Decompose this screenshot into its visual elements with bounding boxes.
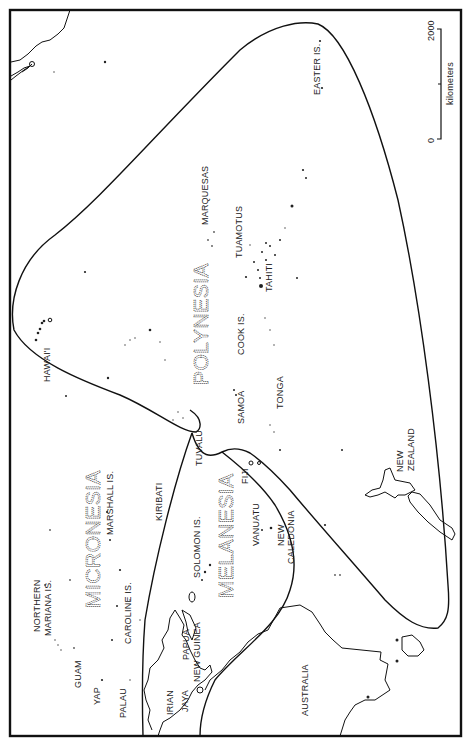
label-new-zealand-1: NEW (395, 450, 405, 472)
label-tuamotus: TUAMOTUS (234, 206, 244, 258)
label-tonga: TONGA (275, 376, 285, 409)
scale-min-label: 0 (426, 138, 436, 143)
scale-max-label: 2000 (426, 20, 436, 41)
label-guam: GUAM (73, 660, 83, 688)
pacific-map: POLYNESIA MICRONESIA MELANESIA MARQUESAS… (0, 0, 469, 740)
label-marshall-islands: MARSHALL IS. (105, 471, 115, 535)
new-zealand-south (408, 492, 455, 540)
map-frame (10, 10, 461, 736)
scale-bar: 2000 0 kilometers (426, 20, 455, 143)
label-new-zealand-2: ZEALAND (406, 428, 416, 471)
label-caroline-islands: CAROLINE IS. (123, 582, 133, 644)
label-marquesas: MARQUESAS (200, 166, 210, 225)
place-labels: MARQUESAS TUAMOTUS TAHITI EASTER IS. HAW… (32, 43, 416, 718)
region-label-polynesia: POLYNESIA (189, 263, 212, 385)
label-northern-mariana-1: NORTHERN (32, 580, 42, 632)
label-irian-1: IRIAN (165, 690, 175, 715)
coastline-americas (11, 10, 70, 80)
coastline-australia (205, 605, 390, 736)
label-tahiti: TAHITI (264, 263, 274, 292)
label-papua-2: NEW GUINEA (192, 622, 202, 682)
label-hawaii: HAWAI'I (42, 348, 52, 382)
label-tuvalu: TUVALU (194, 430, 204, 466)
label-kiribati: KIRIBATI (154, 483, 164, 521)
label-easter-island: EASTER IS. (312, 43, 322, 95)
region-labels: POLYNESIA MICRONESIA MELANESIA (81, 263, 237, 608)
label-northern-mariana-2: MARIANA IS. (43, 580, 53, 636)
label-samoa: SAMOA (236, 390, 246, 424)
region-label-micronesia: MICRONESIA (81, 470, 104, 608)
label-new-caledonia-2: CALEDONIA (286, 510, 296, 564)
label-vanuatu: VANUATU (251, 503, 261, 546)
label-cook-islands: COOK IS. (236, 313, 246, 355)
region-label-melanesia: MELANESIA (214, 473, 237, 598)
hawaii-islands (35, 318, 52, 341)
label-yap: YAP (92, 687, 102, 705)
scale-bar-line (437, 29, 441, 139)
label-palau: PALAU (118, 688, 128, 718)
island-bougainville (189, 592, 195, 602)
new-zealand-north (365, 468, 415, 498)
label-papua-1: PAPUA (181, 629, 191, 660)
label-australia: AUSTRALIA (300, 664, 310, 716)
label-fiji: FIJI (240, 468, 250, 484)
label-new-caledonia-1: NEW (276, 524, 286, 546)
scale-unit-label: kilometers (445, 62, 455, 105)
label-irian-2: JAYA (180, 690, 190, 712)
label-solomon-islands: SOLOMON IS. (192, 516, 202, 578)
tasmania (402, 635, 424, 656)
